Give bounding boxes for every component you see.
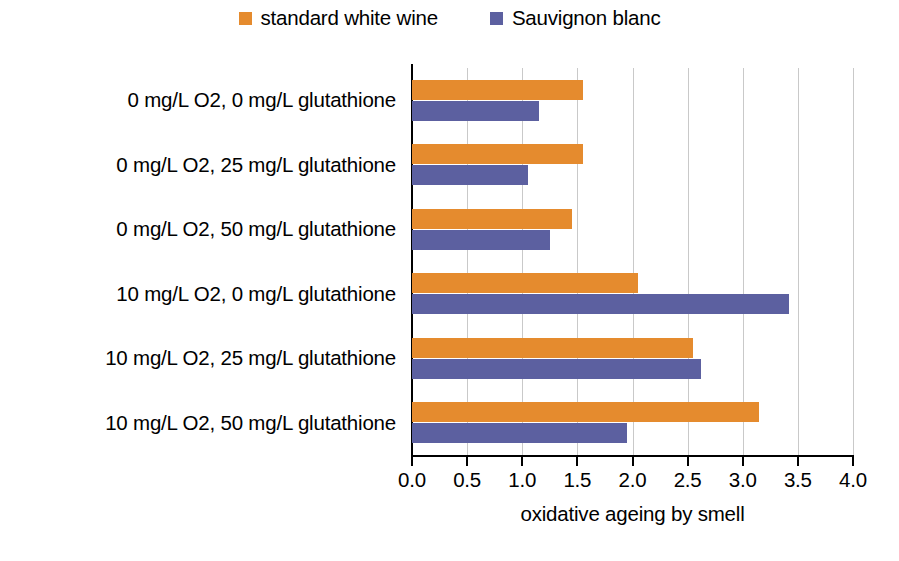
legend-item-sauvignon-blanc: Sauvignon blanc	[490, 7, 661, 29]
legend-label-series-0: standard white wine	[261, 7, 438, 29]
category-label-3: 10 mg/L O2, 0 mg/L glutathione	[0, 262, 404, 327]
gridline-4	[853, 68, 854, 455]
tick-label-4.0: 4.0	[839, 468, 867, 492]
bar-series-0-cat-2	[412, 209, 572, 229]
tick-label-0.0: 0.0	[398, 468, 426, 492]
tick-label-3.0: 3.0	[729, 468, 757, 492]
category-label-1: 0 mg/L O2, 25 mg/L glutathione	[0, 133, 404, 198]
tick-3.5	[797, 457, 799, 466]
tick-0.5	[466, 457, 468, 466]
bar-series-1-cat-3	[412, 294, 789, 314]
bar-group-4	[412, 326, 853, 391]
tick-3	[742, 457, 744, 466]
legend-swatch-icon-series-0	[239, 12, 252, 25]
chart-legend: standard white wine Sauvignon blanc	[0, 2, 899, 34]
bar-group-3	[412, 262, 853, 327]
tick-1	[521, 457, 523, 466]
bar-series-0-cat-5	[412, 402, 759, 422]
tick-label-0.5: 0.5	[453, 468, 481, 492]
category-label-2: 0 mg/L O2, 50 mg/L glutathione	[0, 197, 404, 262]
legend-item-standard-white-wine: standard white wine	[239, 7, 438, 29]
category-label-5: 10 mg/L O2, 50 mg/L glutathione	[0, 391, 404, 456]
bar-series-0-cat-4	[412, 338, 693, 358]
category-label-0: 0 mg/L O2, 0 mg/L glutathione	[0, 68, 404, 133]
tick-4	[852, 457, 854, 466]
bar-group-0	[412, 68, 853, 133]
legend-label-series-1: Sauvignon blanc	[512, 7, 661, 29]
category-axis-labels: 0 mg/L O2, 0 mg/L glutathione 0 mg/L O2,…	[0, 68, 404, 455]
tick-2	[632, 457, 634, 466]
bar-series-1-cat-0	[412, 101, 539, 121]
bar-series-1-cat-2	[412, 230, 550, 250]
x-axis-tick-labels: 0.00.51.01.52.02.53.03.54.0	[0, 468, 899, 496]
tick-0	[411, 457, 413, 466]
bar-series-0-cat-1	[412, 144, 583, 164]
legend-swatch-icon-series-1	[490, 12, 503, 25]
bar-group-2	[412, 197, 853, 262]
plot-area	[412, 68, 853, 455]
bar-series-1-cat-5	[412, 423, 627, 443]
bar-group-5	[412, 391, 853, 456]
bar-series-1-cat-4	[412, 359, 701, 379]
tick-label-2.5: 2.5	[674, 468, 702, 492]
category-label-4: 10 mg/L O2, 25 mg/L glutathione	[0, 326, 404, 391]
tick-2.5	[687, 457, 689, 466]
tick-label-1.5: 1.5	[563, 468, 591, 492]
bar-series-0-cat-3	[412, 273, 638, 293]
tick-label-3.5: 3.5	[784, 468, 812, 492]
tick-label-1.0: 1.0	[508, 468, 536, 492]
tick-label-2.0: 2.0	[619, 468, 647, 492]
bar-series-1-cat-1	[412, 165, 528, 185]
bar-series-0-cat-0	[412, 80, 583, 100]
bar-group-1	[412, 133, 853, 198]
x-axis-title: oxidative ageing by smell	[412, 502, 853, 526]
bar-chart: standard white wine Sauvignon blanc 0 mg…	[0, 0, 899, 561]
bar-rows	[412, 68, 853, 455]
tick-1.5	[576, 457, 578, 466]
x-axis-ticks	[412, 457, 853, 467]
